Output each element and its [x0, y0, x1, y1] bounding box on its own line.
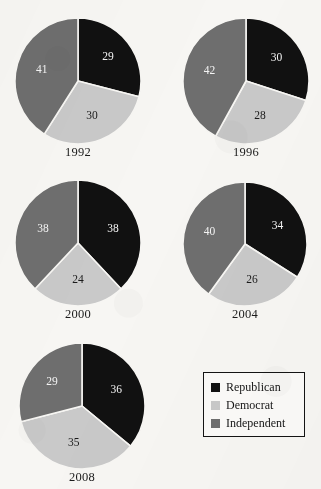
slice-value-1996-republican: 30 — [271, 51, 283, 63]
pie-svg-1996: 302842 — [183, 18, 309, 144]
slice-value-2008-independent: 29 — [46, 375, 58, 387]
slice-value-1992-independent: 41 — [36, 63, 48, 75]
slice-value-2004-republican: 34 — [272, 219, 284, 231]
legend-swatch-independent — [211, 419, 220, 428]
pie-svg-2008: 363529 — [19, 343, 145, 469]
pie-chart-2004: 342640 — [183, 182, 307, 306]
legend-item-republican: Republican — [211, 378, 304, 396]
pie-svg-1992: 293041 — [15, 18, 141, 144]
pie-svg-2000: 382438 — [15, 180, 141, 306]
slice-value-2004-independent: 40 — [204, 225, 216, 237]
legend-label-democrat: Democrat — [226, 399, 273, 411]
pie-year-label-2004: 2004 — [183, 307, 307, 322]
slice-value-2000-independent: 38 — [37, 222, 49, 234]
pie-year-label-2000: 2000 — [15, 307, 141, 322]
legend-swatch-republican — [211, 383, 220, 392]
pie-chart-1996: 302842 — [183, 18, 309, 144]
slice-value-2008-democrat: 35 — [68, 436, 80, 448]
slice-value-1992-republican: 29 — [102, 50, 114, 62]
legend-swatch-democrat — [211, 401, 220, 410]
pie-year-label-1996: 1996 — [183, 145, 309, 160]
slice-value-1996-democrat: 28 — [254, 109, 266, 121]
pie-year-label-2008: 2008 — [19, 470, 145, 485]
slice-value-2000-republican: 38 — [107, 222, 119, 234]
chart-legend: RepublicanDemocratIndependent — [203, 372, 305, 437]
pie-year-label-1992: 1992 — [15, 145, 141, 160]
pie-svg-2004: 342640 — [183, 182, 307, 306]
slice-value-1992-democrat: 30 — [86, 109, 98, 121]
pie-chart-2008: 363529 — [19, 343, 145, 469]
slice-value-2004-democrat: 26 — [246, 273, 258, 285]
legend-label-republican: Republican — [226, 381, 281, 393]
pie-chart-1992: 293041 — [15, 18, 141, 144]
pie-chart-2000: 382438 — [15, 180, 141, 306]
legend-label-independent: Independent — [226, 417, 285, 429]
slice-value-2000-democrat: 24 — [72, 273, 84, 285]
legend-item-democrat: Democrat — [211, 396, 304, 414]
legend-item-independent: Independent — [211, 414, 304, 432]
slice-value-2008-republican: 36 — [110, 383, 122, 395]
slice-value-1996-independent: 42 — [204, 64, 216, 76]
